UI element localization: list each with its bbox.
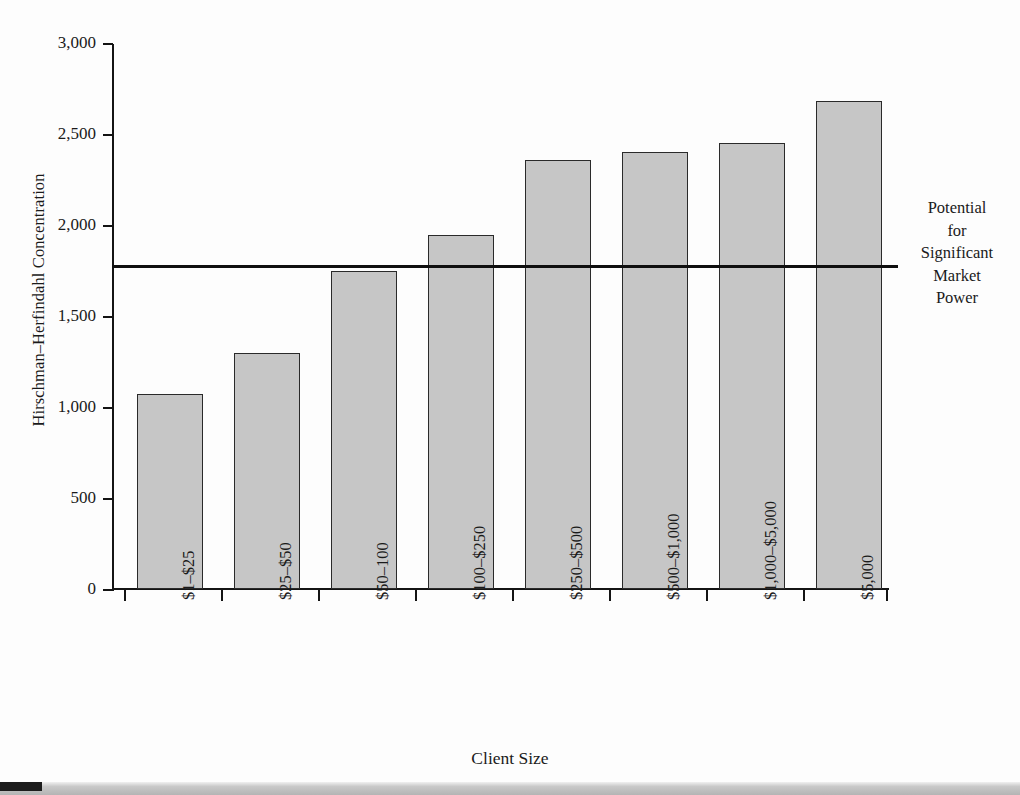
x-tick-label: $100–$250 xyxy=(469,440,491,600)
x-tick xyxy=(803,590,805,601)
y-tick: 0 xyxy=(103,589,113,591)
threshold-line xyxy=(112,265,898,268)
x-tick-label: $500–$1,000 xyxy=(663,440,685,600)
y-tick: 3,000 xyxy=(103,43,113,45)
x-tick xyxy=(512,590,514,601)
y-tick-label: 2,000 xyxy=(58,215,96,235)
x-tick-label: $25–$50 xyxy=(275,440,297,600)
y-tick-label: 1,000 xyxy=(58,397,96,417)
scan-artifact-dark-block xyxy=(0,782,42,791)
y-tick-label: 0 xyxy=(88,579,97,599)
x-tick xyxy=(221,590,223,601)
y-tick-label: 3,000 xyxy=(58,33,96,53)
x-tick-label: $1–$25 xyxy=(178,440,200,600)
chart-page: Hirschman–Herfindahl Concentration 05001… xyxy=(0,0,1020,795)
threshold-annotation-line-4: Market xyxy=(898,265,1016,288)
x-axis-title: Client Size xyxy=(0,748,1020,769)
y-tick: 1,000 xyxy=(103,407,113,409)
threshold-annotation-line-2: for xyxy=(898,220,1016,243)
y-axis-title: Hirschman–Herfindahl Concentration xyxy=(26,30,52,570)
x-tick xyxy=(706,590,708,601)
threshold-annotation: Potential for Significant Market Power xyxy=(898,197,1016,310)
x-tick-label: $250–$500 xyxy=(566,440,588,600)
y-tick-label: 500 xyxy=(71,488,97,508)
y-tick: 500 xyxy=(103,498,113,500)
x-tick xyxy=(318,590,320,601)
x-tick xyxy=(124,590,126,601)
y-tick: 2,000 xyxy=(103,225,113,227)
y-tick: 2,500 xyxy=(103,134,113,136)
threshold-annotation-line-1: Potential xyxy=(898,197,1016,220)
x-tick xyxy=(886,590,888,601)
y-tick-label: 1,500 xyxy=(58,306,96,326)
x-tick xyxy=(609,590,611,601)
x-tick-label: $1,000–$5,000 xyxy=(760,440,782,600)
scan-artifact-strip xyxy=(0,782,1020,795)
x-tick xyxy=(415,590,417,601)
x-tick-label: $50–100 xyxy=(372,440,394,600)
y-tick-label: 2,500 xyxy=(58,124,96,144)
x-tick-label: $5,000 xyxy=(857,440,879,600)
threshold-annotation-line-3: Significant xyxy=(898,242,1016,265)
threshold-annotation-line-5: Power xyxy=(898,287,1016,310)
y-tick: 1,500 xyxy=(103,316,113,318)
